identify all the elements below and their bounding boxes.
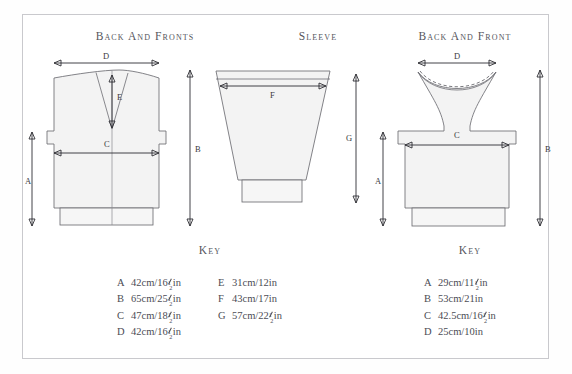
fraction-one-half: 12 <box>168 308 173 319</box>
garment-hem-band <box>60 208 153 225</box>
diagram-back-and-front: D C A <box>372 48 557 233</box>
dimension-label-d: D <box>103 51 109 61</box>
key-letter: A <box>117 275 131 291</box>
fraction-one-half: 12 <box>269 308 274 319</box>
key-title-right: Key <box>390 244 550 256</box>
key-value-unit: in <box>274 310 282 321</box>
key-entry-g: G57cm/2212in <box>218 308 282 324</box>
dimension-label-a: A <box>25 176 32 186</box>
key-value: 43cm/17in <box>232 291 277 307</box>
key-value: 25cm/10in <box>438 324 483 340</box>
key-title-left: Key <box>110 244 310 256</box>
key-letter: C <box>424 308 438 324</box>
key-letter: D <box>117 324 131 340</box>
key-value: 47cm/1812in <box>131 308 181 324</box>
key-letter: D <box>424 324 438 340</box>
dimension-arrow-g <box>353 74 359 203</box>
key-letter: F <box>218 291 232 307</box>
sleeve-cuff-band <box>242 180 302 202</box>
key-value-cm: 29cm <box>438 277 461 288</box>
garment-body-shape <box>398 72 516 208</box>
fraction-one-half: 12 <box>168 292 173 303</box>
key-left-column-2: E31cm/12in F43cm/17in G57cm/2212in <box>218 275 282 324</box>
key-entry-c: C42.5cm/1612in <box>424 308 496 324</box>
key-entry-b: B65cm/2512in <box>117 291 181 307</box>
key-entry-d: D42cm/1612in <box>117 324 181 340</box>
key-value: 42.5cm/1612in <box>438 308 496 324</box>
key-value-cm: 42cm <box>131 277 154 288</box>
dimension-label-c: C <box>454 130 460 140</box>
key-value-inches: 22 <box>258 310 269 321</box>
dimension-label-d: D <box>454 51 460 61</box>
key-letter: A <box>424 275 438 291</box>
key-value: 29cm/1112in <box>438 275 488 291</box>
fraction-one-half: 12 <box>474 276 479 287</box>
fraction-one-half: 12 <box>483 308 488 319</box>
key-letter: B <box>424 291 438 307</box>
key-value: 65cm/2512in <box>131 291 181 307</box>
key-value-inches: 16 <box>472 310 483 321</box>
diagram-sleeve: F G <box>198 48 373 233</box>
key-value-cm: 42.5cm <box>438 310 469 321</box>
page-sheet: Back and Fronts Sleeve Back and Front D <box>0 0 572 374</box>
key-entry-b: B53cm/21in <box>424 291 496 307</box>
fraction-one-half: 12 <box>168 325 173 336</box>
key-entry-e: E31cm/12in <box>218 275 282 291</box>
key-entry-a: A42cm/1612in <box>117 275 181 291</box>
key-value: 57cm/2212in <box>232 308 282 324</box>
key-value-unit: in <box>173 310 181 321</box>
key-value-cm: 57cm <box>232 310 255 321</box>
key-letter: C <box>117 308 131 324</box>
key-entry-c: C47cm/1812in <box>117 308 181 324</box>
dimension-label-g: G <box>346 133 352 143</box>
key-value-cm: 47cm <box>131 310 154 321</box>
key-value: 42cm/1612in <box>131 324 181 340</box>
key-value-cm: 42cm <box>131 326 154 337</box>
heading-back-and-front: Back and Front <box>360 30 570 42</box>
dimension-label-e: E <box>117 92 122 102</box>
key-value-unit: in <box>479 277 487 288</box>
key-value-inches: 16 <box>157 326 168 337</box>
sleeve-shape <box>216 71 330 180</box>
key-value: 42cm/1612in <box>131 275 181 291</box>
dimension-arrow-b <box>187 70 193 226</box>
key-entry-f: F43cm/17in <box>218 291 282 307</box>
dimension-label-b: B <box>545 144 551 154</box>
garment-hem-band <box>412 208 505 226</box>
key-letter: E <box>218 275 232 291</box>
key-value-unit: in <box>173 326 181 337</box>
dimension-arrow-b <box>537 70 543 226</box>
key-letter: G <box>218 308 232 324</box>
key-value-unit: in <box>488 310 496 321</box>
dimension-label-a: A <box>375 176 382 186</box>
key-value: 31cm/12in <box>232 275 277 291</box>
key-value-inches: 16 <box>157 277 168 288</box>
key-value-inches: 25 <box>157 293 168 304</box>
key-letter: B <box>117 291 131 307</box>
key-right-column-1: A29cm/1112in B53cm/21in C42.5cm/1612in D… <box>424 275 496 341</box>
diagram-back-and-fronts: D E C <box>24 48 209 233</box>
dimension-label-f: F <box>270 90 275 100</box>
heading-back-and-fronts: Back and Fronts <box>40 30 250 42</box>
key-value-cm: 65cm <box>131 293 154 304</box>
key-value-inches: 11 <box>464 277 474 288</box>
key-entry-a: A29cm/1112in <box>424 275 496 291</box>
key-value-unit: in <box>173 293 181 304</box>
fraction-one-half: 12 <box>168 276 173 287</box>
key-value-unit: in <box>173 277 181 288</box>
dimension-label-c: C <box>104 139 110 149</box>
key-value-inches: 18 <box>157 310 168 321</box>
key-left-column-1: A42cm/1612in B65cm/2512in C47cm/1812in D… <box>117 275 181 341</box>
